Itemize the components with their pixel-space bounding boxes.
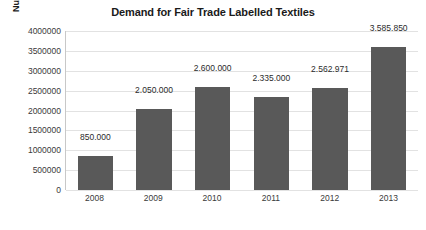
bar-value-label: 2.335.000 <box>252 73 290 85</box>
bar[interactable] <box>195 87 230 190</box>
bar-slot: 2.562.971 <box>301 31 360 190</box>
y-axis-tick-label: 3500000 <box>22 46 61 56</box>
bar-slot: 850.000 <box>66 31 125 190</box>
y-axis-title: Number of Sold Items <box>9 0 23 45</box>
x-axis-tick-label: 2012 <box>300 193 359 203</box>
y-axis-tick-label: 1000000 <box>22 145 61 155</box>
bar[interactable] <box>371 47 406 190</box>
bar[interactable] <box>254 97 289 190</box>
x-axis-tick-labels: 200820092010201120122013 <box>65 193 418 203</box>
y-axis-tick-labels: 0500000100000015000002000000250000030000… <box>22 31 61 190</box>
bar-slot: 2.335.000 <box>242 31 301 190</box>
x-axis-tick-label: 2013 <box>359 193 418 203</box>
y-axis-tick-label: 4000000 <box>22 26 61 36</box>
gridline <box>66 190 418 191</box>
bar-value-label: 850.000 <box>80 132 111 144</box>
bar-slot: 2.050.000 <box>125 31 184 190</box>
bar-value-label: 2.050.000 <box>135 85 173 97</box>
bar-value-label: 2.562.971 <box>311 64 349 76</box>
y-axis-tick-label: 0 <box>22 185 61 195</box>
bar-slot: 2.600.000 <box>183 31 242 190</box>
bar-chart-figure: Demand for Fair Trade Labelled Textiles … <box>0 0 426 230</box>
x-axis-tick-label: 2010 <box>183 193 242 203</box>
bar[interactable] <box>136 109 171 190</box>
x-axis-tick-label: 2008 <box>65 193 124 203</box>
y-axis-tick-label: 2500000 <box>22 86 61 96</box>
bar-value-label: 2.600.000 <box>194 63 232 75</box>
bar-series: 850.0002.050.0002.600.0002.335.0002.562.… <box>66 31 418 190</box>
plot-area: 850.0002.050.0002.600.0002.335.0002.562.… <box>65 31 418 190</box>
chart-title: Demand for Fair Trade Labelled Textiles <box>0 6 426 18</box>
bar-slot: 3.585.850 <box>359 31 418 190</box>
y-axis-tick-label: 500000 <box>22 165 61 175</box>
y-axis-tick-label: 3000000 <box>22 66 61 76</box>
x-axis-tick-label: 2009 <box>124 193 183 203</box>
x-axis-tick-label: 2011 <box>241 193 300 203</box>
y-axis-tick-label: 1500000 <box>22 125 61 135</box>
y-axis-tick-label: 2000000 <box>22 106 61 116</box>
bar[interactable] <box>78 156 113 190</box>
bar-value-label: 3.585.850 <box>370 23 408 35</box>
bar[interactable] <box>312 88 347 190</box>
